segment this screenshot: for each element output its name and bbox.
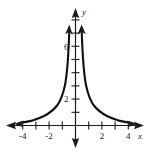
y-axis-name-label: y	[81, 7, 86, 17]
x-axis-right-arrowhead	[134, 122, 144, 129]
right-branch-path	[82, 31, 132, 123]
y-axis-top-arrowhead	[72, 8, 79, 18]
y-axis	[72, 8, 79, 148]
x-tick-label--4: -4	[19, 131, 27, 141]
x-tick-label-2: 2	[100, 131, 105, 141]
left-branch-path	[20, 31, 70, 123]
x-tick-label--2: -2	[45, 131, 53, 141]
curve-right-branch	[77, 25, 137, 128]
y-tick-label-2: 2	[64, 94, 69, 104]
curve-left-branch	[14, 25, 73, 128]
coordinate-plane: -4 -2 2 4 2 6 x y	[0, 0, 150, 151]
x-axis-left-arrowhead	[6, 122, 16, 129]
graph-figure: -4 -2 2 4 2 6 x y	[0, 0, 150, 151]
x-axis-name-label: x	[137, 131, 142, 141]
y-axis-bottom-arrowhead	[72, 138, 79, 148]
x-tick-label-4: 4	[126, 131, 131, 141]
